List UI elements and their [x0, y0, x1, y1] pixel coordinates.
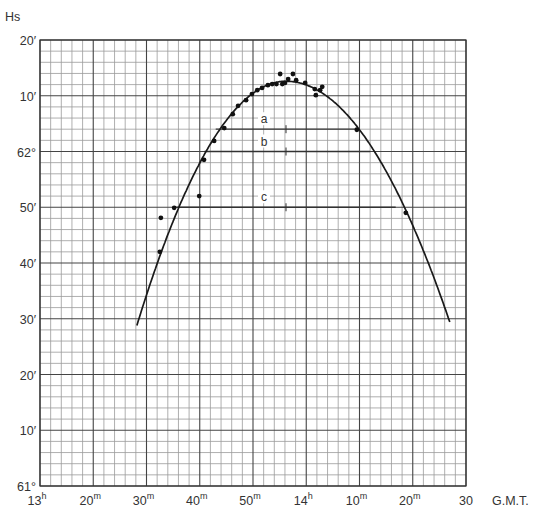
y-tick-label: 40′: [20, 257, 37, 271]
observation-point: [255, 88, 260, 93]
x-tick-label: 50m: [239, 491, 260, 508]
y-tick-label: 61°: [17, 480, 36, 494]
observation-point: [320, 84, 325, 89]
y-axis-ticks: 61°10′20′30′40′50′62°10′20′: [17, 34, 37, 494]
observation-point: [294, 78, 299, 83]
observation-point: [212, 139, 217, 144]
observation-point: [278, 72, 283, 77]
observation-point: [230, 112, 235, 117]
x-tick-label: 20m: [399, 491, 420, 508]
observation-point: [172, 205, 177, 210]
observation-point: [250, 92, 255, 97]
observation-point: [283, 81, 288, 86]
x-axis-label: G.M.T.: [492, 494, 529, 508]
observation-point: [354, 127, 359, 132]
observation-point: [286, 77, 291, 82]
x-tick-label: 20m: [80, 491, 101, 508]
observation-point: [303, 81, 308, 86]
x-tick-label: 30: [459, 494, 473, 508]
observation-point: [236, 103, 241, 108]
x-tick-label: 40m: [186, 491, 207, 508]
observation-point: [291, 72, 296, 77]
observation-point: [244, 98, 249, 103]
altitude-chart: 61°10′20′30′40′50′62°10′20′ 13h20m30m40m…: [0, 0, 541, 519]
observation-point: [313, 93, 318, 98]
observation-point: [222, 126, 227, 131]
annotation-label-b: b: [261, 135, 268, 149]
x-tick-label: 10m: [346, 491, 367, 508]
y-tick-label: 10′: [20, 90, 37, 104]
y-tick-label: 62°: [17, 146, 36, 160]
observation-point: [202, 157, 207, 162]
observation-point: [157, 249, 162, 254]
y-tick-label: 10′: [20, 424, 37, 438]
observation-point: [403, 210, 408, 215]
observation-point: [274, 82, 279, 87]
annotation-label-c: c: [261, 190, 267, 204]
annotation-label-a: a: [261, 112, 268, 126]
observation-point: [260, 86, 265, 91]
observation-point: [197, 194, 202, 199]
observation-point: [266, 83, 271, 88]
observation-point: [312, 87, 317, 92]
annotation-lines: [176, 125, 395, 211]
observation-point: [158, 215, 163, 220]
observation-point: [270, 82, 275, 87]
x-tick-label: 13h: [28, 491, 47, 508]
y-tick-label: 50′: [20, 201, 37, 215]
y-tick-label: 30′: [20, 313, 37, 327]
y-tick-label: 20′: [20, 34, 37, 48]
x-tick-label: 30m: [133, 491, 154, 508]
x-axis-ticks: 13h20m30m40m50m14h10m20m30: [28, 491, 473, 508]
y-tick-label: 20′: [20, 369, 37, 383]
x-tick-label: 14h: [294, 491, 313, 508]
y-axis-label: Hs: [5, 10, 20, 24]
